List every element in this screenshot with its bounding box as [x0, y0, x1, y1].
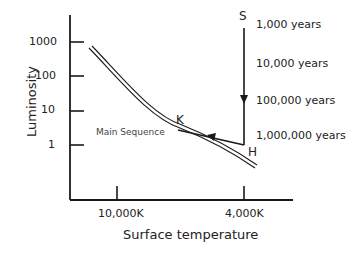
- y-tick-label-10: 10: [41, 104, 55, 115]
- time-label-1000000: 1,000,000 years: [256, 130, 346, 141]
- point-label-h: H: [248, 146, 257, 158]
- x-tick-label-4000k: 4,000K: [225, 208, 264, 219]
- y-tick-label-1000: 1000: [29, 36, 57, 47]
- time-label-10000: 10,000 years: [256, 58, 328, 69]
- time-label-100000: 100,000 years: [256, 95, 335, 106]
- point-label-s: S: [239, 10, 247, 22]
- main-sequence-label: Main Sequence: [96, 128, 165, 137]
- y-axis-title: Luminosity: [25, 62, 38, 142]
- x-axis-title: Surface temperature: [123, 228, 258, 241]
- x-tick-label-10000k: 10,000K: [98, 208, 144, 219]
- main-sequence-curve: [89, 46, 257, 168]
- point-label-k: K: [176, 114, 184, 126]
- arrow-down-icon: [240, 95, 248, 104]
- y-tick-label-1: 1: [48, 139, 55, 150]
- time-label-1000: 1,000 years: [256, 19, 321, 30]
